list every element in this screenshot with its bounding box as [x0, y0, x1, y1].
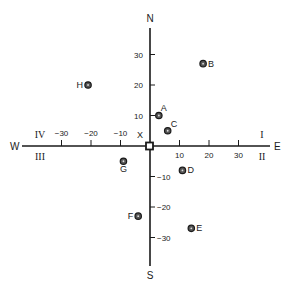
point-f: F: [128, 211, 142, 221]
point-label: E: [196, 223, 202, 233]
west-label: W: [10, 141, 20, 152]
point-label: B: [208, 59, 214, 69]
origin-label: X: [137, 130, 143, 140]
point-marker-center: [190, 227, 192, 229]
y-tick-label: −10: [157, 173, 171, 182]
y-tick-label: 20: [134, 81, 143, 90]
south-label: S: [147, 270, 154, 281]
point-a: A: [156, 103, 167, 119]
north-label: N: [146, 13, 153, 24]
x-tick-label: 20: [205, 151, 214, 160]
point-h: H: [77, 80, 92, 90]
x-tick-label: −30: [55, 129, 69, 138]
quadrant-IV-label: IV: [35, 129, 46, 140]
point-marker-center: [202, 63, 204, 65]
point-label: G: [120, 164, 127, 174]
point-d: D: [179, 165, 194, 175]
point-marker-center: [123, 160, 125, 162]
point-marker-center: [87, 84, 89, 86]
point-marker-center: [158, 115, 160, 117]
y-tick-label: 10: [134, 112, 143, 121]
y-tick-label: 30: [134, 51, 143, 60]
y-tick-label: −20: [157, 203, 171, 212]
point-label: A: [161, 103, 167, 113]
quadrant-II-label: II: [259, 151, 266, 162]
point-label: F: [128, 211, 134, 221]
y-tick-label: −30: [157, 234, 171, 243]
point-marker-center: [167, 130, 169, 132]
point-label: D: [187, 165, 194, 175]
quadrant-I-label: I: [260, 129, 263, 140]
x-tick-label: 30: [234, 151, 243, 160]
x-tick-label: −20: [84, 129, 98, 138]
point-e: E: [188, 223, 202, 233]
x-tick-label: 10: [175, 151, 184, 160]
point-label: H: [77, 80, 84, 90]
quadrant-III-label: III: [35, 151, 45, 162]
point-g: G: [120, 158, 127, 174]
point-marker-center: [137, 215, 139, 217]
point-b: B: [200, 59, 214, 69]
point-label: C: [171, 119, 178, 129]
compass-coordinate-diagram: N S E W X I II III IV −30−20−10102030302…: [0, 0, 300, 285]
point-marker-center: [182, 170, 184, 172]
x-tick-label: −10: [114, 129, 128, 138]
origin-marker: [146, 143, 153, 150]
point-c: C: [165, 119, 178, 134]
east-label: E: [274, 141, 281, 152]
